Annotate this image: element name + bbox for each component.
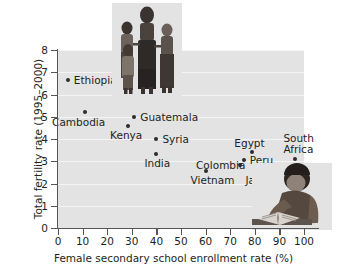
data-point-label: Colombia: [196, 160, 245, 171]
y-tick-mark: [51, 139, 57, 140]
data-point[interactable]: [66, 78, 70, 82]
reading-student-photo: [252, 163, 332, 230]
y-tick-mark: [51, 206, 57, 207]
y-axis-title: Total fertility rate (1995–2000): [32, 39, 44, 239]
data-point[interactable]: [154, 152, 158, 156]
x-tick-label: 100: [284, 236, 324, 246]
y-tick-mark: [51, 50, 57, 51]
data-point-label: South Africa: [283, 133, 314, 155]
reading-student-graphic: [252, 163, 332, 230]
family-photo: [112, 3, 182, 96]
data-point-label: Vietnam: [191, 175, 235, 186]
data-point[interactable]: [154, 137, 158, 141]
y-tick-mark: [51, 184, 57, 185]
data-point[interactable]: [126, 124, 130, 128]
y-axis-line: [57, 49, 58, 229]
data-point-label: Cambodia: [52, 117, 105, 128]
y-tick-mark: [51, 161, 57, 162]
data-point[interactable]: [132, 115, 136, 119]
y-tick-mark: [51, 117, 57, 118]
data-point-label: Egypt: [234, 138, 264, 149]
data-point[interactable]: [83, 110, 87, 114]
data-point-label: Syria: [162, 134, 189, 145]
x-axis-title: Female secondary school enrollment rate …: [0, 252, 347, 264]
y-tick-mark: [51, 228, 57, 229]
data-point-label: Ethiopia: [74, 75, 117, 86]
data-point-label: Guatemala: [140, 112, 198, 123]
data-point-label: India: [144, 158, 170, 169]
y-tick-mark: [51, 95, 57, 96]
data-point-label: Kenya: [110, 130, 142, 141]
fertility-scatter-chart: EthiopiaCambodiaGuatemalaKenyaSyriaIndia…: [0, 0, 347, 276]
family-photo-graphic: [112, 3, 182, 96]
y-tick-mark: [51, 72, 57, 73]
